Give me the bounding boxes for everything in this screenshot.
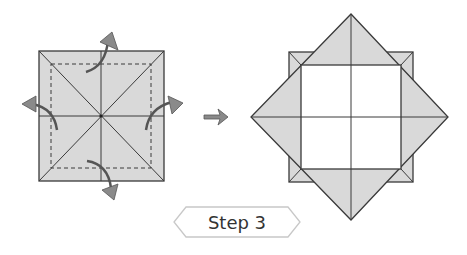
step-label: Step 3 [178, 207, 296, 237]
next-step-arrow-icon [204, 109, 228, 125]
arrow-left-icon [22, 96, 36, 112]
left-figure [39, 51, 164, 181]
arrow-up-icon [100, 32, 118, 50]
arrow-right-icon [168, 96, 183, 114]
right-figure [251, 14, 448, 220]
